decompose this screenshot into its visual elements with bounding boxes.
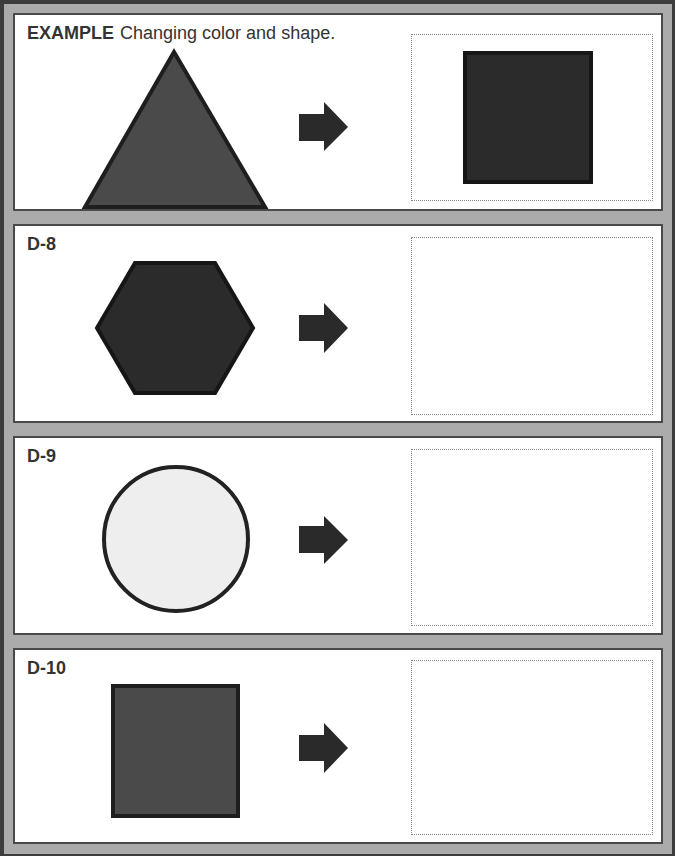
square-result-shape: [15, 15, 665, 213]
panel-example: EXAMPLEChanging color and shape.: [13, 13, 663, 211]
panel-d9: D-9: [13, 436, 663, 635]
panel-d8: D-8: [13, 224, 663, 423]
answer-box[interactable]: [411, 449, 653, 626]
panel-d10: D-10: [13, 648, 663, 844]
answer-box[interactable]: [411, 237, 653, 415]
answer-box[interactable]: [411, 660, 653, 835]
